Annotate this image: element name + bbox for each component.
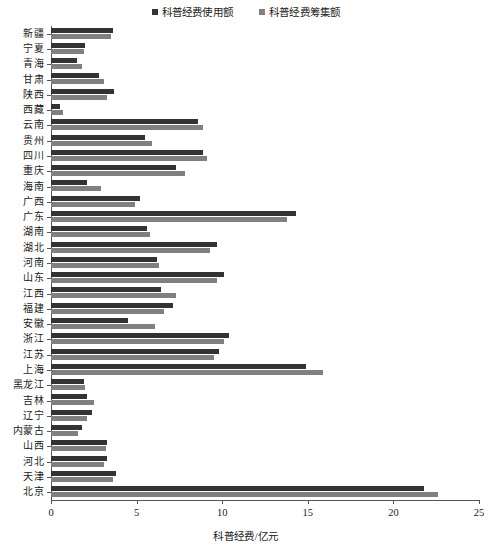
y-axis-label: 黑龙江 [13,380,45,390]
x-axis-ticks: 0510152025 [51,500,479,530]
bar-raised[interactable] [51,95,107,100]
legend-item-used[interactable]: 科普经费使用额 [152,4,233,19]
bar-raised[interactable] [51,49,84,54]
bar-group [51,164,479,179]
bar-used[interactable] [51,135,145,140]
bar-used[interactable] [51,318,128,323]
legend-label-used: 科普经费使用额 [162,4,233,19]
y-axis-label: 陕西 [23,90,44,100]
bar-used[interactable] [51,379,84,384]
x-axis-tick [222,500,223,504]
bar-used[interactable] [51,242,217,247]
bar-raised[interactable] [51,156,207,161]
bar-used[interactable] [51,272,224,277]
bar-used[interactable] [51,165,176,170]
bar-used[interactable] [51,440,107,445]
bar-used[interactable] [51,456,107,461]
bar-group [51,179,479,194]
x-axis-tick-label: 20 [388,507,399,518]
legend-swatch-used [152,9,158,15]
bar-raised[interactable] [51,110,63,115]
bar-raised[interactable] [51,79,104,84]
bar-used[interactable] [51,180,87,185]
bar-used[interactable] [51,425,82,430]
bar-group [51,301,479,316]
bar-group [51,393,479,408]
legend-label-raised: 科普经费筹集额 [269,4,340,19]
bar-raised[interactable] [51,477,113,482]
bar-raised[interactable] [51,446,106,451]
y-axis-label: 甘肃 [23,75,44,85]
bar-used[interactable] [51,486,424,491]
bar-used[interactable] [51,410,92,415]
bar-group [51,148,479,163]
bar-group [51,102,479,117]
bar-used[interactable] [51,303,173,308]
bar-group [51,454,479,469]
bar-used[interactable] [51,58,77,63]
bar-raised[interactable] [51,293,176,298]
bar-used[interactable] [51,119,198,124]
bar-group [51,362,479,377]
bar-raised[interactable] [51,370,323,375]
y-axis-labels: 新疆宁夏青海甘肃陕西西藏云南贵州四川重庆海南广西广东湖南湖北河南山东江西福建安徽… [0,26,48,500]
x-axis-title: 科普经费/亿元 [0,528,492,543]
y-axis-label: 青海 [23,59,44,69]
bar-group [51,26,479,41]
bar-group [51,286,479,301]
y-axis-label: 重庆 [23,166,44,176]
bar-raised[interactable] [51,141,152,146]
x-axis-tick-label: 10 [217,507,228,518]
bar-used[interactable] [51,471,116,476]
y-axis-label: 内蒙古 [13,426,45,436]
bar-raised[interactable] [51,278,217,283]
bar-raised[interactable] [51,492,438,497]
y-axis-label: 四川 [23,151,44,161]
bar-raised[interactable] [51,217,287,222]
bar-used[interactable] [51,333,229,338]
bar-raised[interactable] [51,202,135,207]
y-axis-label: 江西 [23,289,44,299]
bar-used[interactable] [51,287,161,292]
x-axis-tick [137,500,138,504]
bar-raised[interactable] [51,263,159,268]
bar-raised[interactable] [51,186,101,191]
bar-raised[interactable] [51,232,150,237]
bar-raised[interactable] [51,355,214,360]
bar-raised[interactable] [51,34,111,39]
bar-raised[interactable] [51,171,185,176]
bar-used[interactable] [51,73,99,78]
y-axis-label: 吉林 [23,396,44,406]
bar-group [51,485,479,500]
science-funding-bar-chart: 科普经费使用额 科普经费筹集额 新疆宁夏青海甘肃陕西西藏云南贵州四川重庆海南广西… [0,0,492,553]
bar-used[interactable] [51,104,60,109]
bar-used[interactable] [51,196,140,201]
bar-raised[interactable] [51,385,85,390]
bar-used[interactable] [51,89,114,94]
bar-used[interactable] [51,211,296,216]
bar-used[interactable] [51,257,157,262]
bar-raised[interactable] [51,400,94,405]
legend-swatch-raised [259,9,265,15]
bar-group [51,439,479,454]
bar-raised[interactable] [51,324,155,329]
bar-group [51,225,479,240]
bar-raised[interactable] [51,248,210,253]
bar-used[interactable] [51,28,113,33]
legend-item-raised[interactable]: 科普经费筹集额 [259,4,340,19]
y-axis-label: 安徽 [23,319,44,329]
bar-raised[interactable] [51,431,78,436]
bar-used[interactable] [51,226,147,231]
bar-raised[interactable] [51,462,104,467]
bar-raised[interactable] [51,125,203,130]
bar-raised[interactable] [51,339,224,344]
bar-raised[interactable] [51,64,82,69]
bar-raised[interactable] [51,309,164,314]
bar-used[interactable] [51,43,85,48]
bar-used[interactable] [51,364,306,369]
y-axis-label: 宁夏 [23,44,44,54]
bar-used[interactable] [51,394,87,399]
bar-used[interactable] [51,150,203,155]
bar-used[interactable] [51,349,219,354]
bar-raised[interactable] [51,416,87,421]
